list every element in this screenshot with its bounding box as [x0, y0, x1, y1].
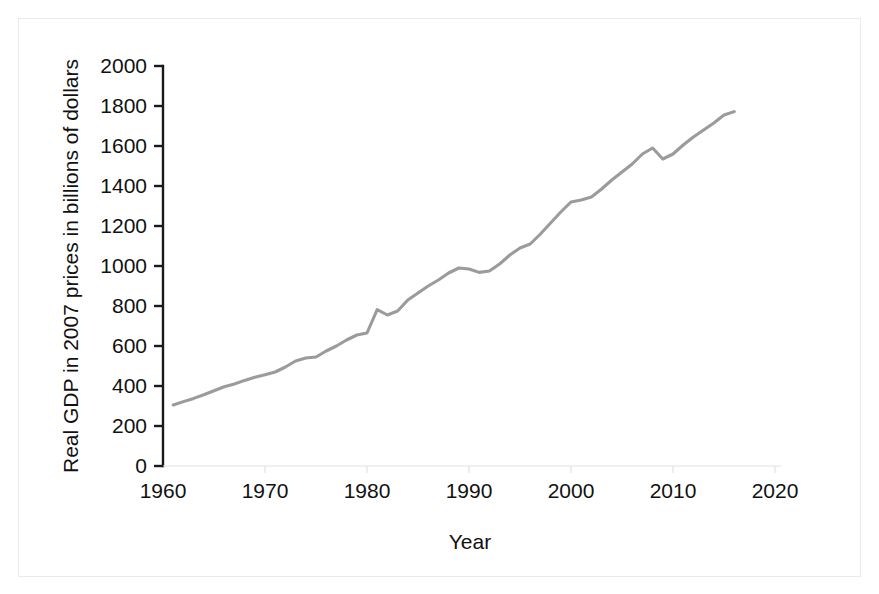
x-tick-label: 1990 [446, 479, 493, 502]
y-tick-label: 1400 [100, 174, 147, 197]
x-tick-label: 2000 [548, 479, 595, 502]
y-tick-label: 600 [112, 334, 147, 357]
y-tick-label: 400 [112, 374, 147, 397]
y-tick-label: 0 [135, 454, 147, 477]
y-tick-label: 200 [112, 414, 147, 437]
x-tick-label: 1960 [140, 479, 187, 502]
x-axis [163, 466, 781, 473]
plot-area: 0200400600800100012001400160018002000 19… [0, 0, 879, 594]
y-tick-label: 1600 [100, 134, 147, 157]
series-line [173, 112, 734, 405]
x-tick-label: 2010 [650, 479, 697, 502]
y-tick-label: 800 [112, 294, 147, 317]
y-tick-label: 2000 [100, 54, 147, 77]
x-tick-label: 1970 [242, 479, 289, 502]
y-tick-label: 1200 [100, 214, 147, 237]
x-tick-labels: 1960197019801990200020102020 [140, 479, 799, 502]
data-series [173, 112, 734, 405]
x-tick-label: 2020 [752, 479, 799, 502]
chart-figure: 0200400600800100012001400160018002000 19… [0, 0, 879, 594]
y-axis [154, 66, 163, 466]
line-chart: 0200400600800100012001400160018002000 19… [0, 0, 879, 594]
y-tick-labels: 0200400600800100012001400160018002000 [100, 54, 147, 477]
y-axis-title: Real GDP in 2007 prices in billions of d… [59, 59, 82, 473]
x-tick-label: 1980 [344, 479, 391, 502]
y-tick-label: 1000 [100, 254, 147, 277]
y-tick-label: 1800 [100, 94, 147, 117]
x-axis-title: Year [449, 530, 491, 553]
